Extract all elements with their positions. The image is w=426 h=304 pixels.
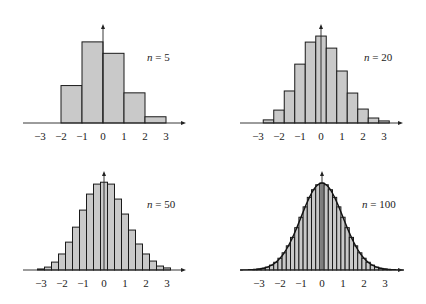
x-tick-label: 1 <box>340 277 346 289</box>
histogram-bar <box>307 197 311 270</box>
y-axis-arrow-icon <box>320 171 324 176</box>
histogram-bar <box>303 207 307 270</box>
histogram-figure: −3−2−10123n = 5 −3−2−10123n = 20 −3−2−10… <box>0 0 426 304</box>
x-tick-label: −1 <box>76 130 88 142</box>
histogram-bar <box>94 184 101 270</box>
x-tick-label: 2 <box>361 277 367 289</box>
x-axis-arrow-icon <box>181 268 186 272</box>
histogram-bar <box>299 217 303 270</box>
histogram-bar <box>108 184 115 270</box>
x-tick-label: −2 <box>274 277 286 289</box>
histogram-bar <box>115 199 122 270</box>
histogram-bar <box>305 42 316 123</box>
x-tick-label: −1 <box>295 277 307 289</box>
x-tick-label: −2 <box>56 277 68 289</box>
x-axis-arrow-icon <box>398 121 403 125</box>
histogram-bar <box>316 185 320 270</box>
x-tick-label: 2 <box>360 130 366 142</box>
sample-size-label: n = 50 <box>147 198 176 210</box>
histogram-bar <box>61 86 82 123</box>
histogram-bar <box>333 197 337 270</box>
histogram-bar <box>328 190 332 270</box>
sample-size-label: n = 5 <box>147 51 170 63</box>
histogram-bar <box>341 217 345 270</box>
histogram-bar <box>136 244 143 270</box>
histogram-bar <box>52 262 59 270</box>
histogram-bar <box>291 237 295 270</box>
x-tick-label: 0 <box>318 130 324 142</box>
histogram-bar <box>66 242 73 270</box>
histogram-bar <box>324 185 328 270</box>
x-tick-label: −3 <box>253 277 265 289</box>
histogram-bar <box>82 42 103 123</box>
sample-size-label: n = 100 <box>362 198 396 210</box>
x-tick-label: 0 <box>101 277 107 289</box>
histogram-bar <box>326 48 337 123</box>
panel-n5: −3−2−10123n = 5 <box>23 24 186 142</box>
histogram-bar <box>349 237 353 270</box>
histogram-bar <box>157 266 164 270</box>
x-tick-label: 2 <box>142 130 148 142</box>
sample-size-label: n = 20 <box>364 51 393 63</box>
histogram-bar <box>124 93 145 123</box>
histogram-bar <box>337 71 348 123</box>
histogram-bar <box>80 210 87 270</box>
x-tick-label: 0 <box>319 277 325 289</box>
histogram-bar <box>103 53 124 123</box>
x-tick-label: −1 <box>77 277 89 289</box>
x-tick-label: 1 <box>122 277 128 289</box>
x-tick-label: 3 <box>163 130 169 142</box>
histogram-bar <box>129 230 136 270</box>
x-axis-arrow-icon <box>398 268 403 272</box>
histogram-bar <box>358 109 369 123</box>
y-axis-arrow-icon <box>101 24 105 29</box>
histogram-bar <box>122 214 129 270</box>
histogram-bar <box>73 227 80 270</box>
x-tick-label: −3 <box>34 130 46 142</box>
x-tick-label: 1 <box>121 130 127 142</box>
histogram-bar <box>145 117 166 123</box>
x-tick-label: −3 <box>35 277 47 289</box>
panel-n100: −3−2−10123n = 100 <box>240 171 404 289</box>
y-axis-arrow-icon <box>102 171 106 176</box>
x-axis-arrow-icon <box>181 121 186 125</box>
histogram-bar <box>263 120 274 123</box>
bars <box>263 36 389 123</box>
x-tick-label: 2 <box>143 277 149 289</box>
histogram-bar <box>347 93 358 123</box>
histogram-bar <box>368 118 379 123</box>
histogram-bar <box>150 261 157 270</box>
y-axis-arrow-icon <box>319 24 323 29</box>
x-tick-label: −2 <box>55 130 67 142</box>
x-tick-label: 1 <box>339 130 345 142</box>
x-tick-label: 0 <box>100 130 106 142</box>
histogram-bar <box>59 254 66 270</box>
histogram-bar <box>312 190 316 270</box>
x-tick-label: 3 <box>164 277 170 289</box>
x-tick-label: −2 <box>273 130 285 142</box>
histogram-bar <box>337 207 341 270</box>
panel-n50: −3−2−10123n = 50 <box>23 171 186 289</box>
histogram-bar <box>284 91 295 123</box>
histogram-bar <box>274 110 285 123</box>
histogram-bar <box>87 194 94 270</box>
x-tick-label: −1 <box>294 130 306 142</box>
histogram-bar <box>295 228 299 270</box>
histogram-bar <box>345 228 349 270</box>
x-tick-label: 3 <box>381 130 387 142</box>
histogram-bar <box>143 254 150 270</box>
panel-n20: −3−2−10123n = 20 <box>240 24 403 142</box>
histogram-bar <box>295 64 306 123</box>
x-tick-label: −3 <box>252 130 264 142</box>
x-tick-label: 3 <box>382 277 388 289</box>
